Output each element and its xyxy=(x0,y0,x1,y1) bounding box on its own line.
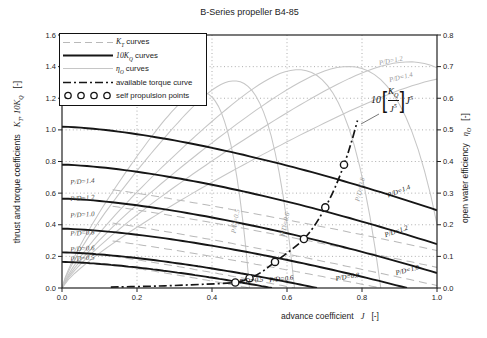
formula-part: J5 xyxy=(405,94,413,106)
chart-legend: KT curves10KQ curvesηO curvesavailable t… xyxy=(59,33,207,106)
kt-curve-label: P/D=1.0 xyxy=(69,210,95,219)
chart-title: B-Series propeller B4-85 xyxy=(62,7,437,17)
left-y-tick-label: 0.8 xyxy=(46,157,56,166)
kt-curve-label: P/D=0.6 xyxy=(69,244,95,253)
kt-curve-label: P/D=1.4 xyxy=(69,177,95,186)
right-y-tick-label: 0.3 xyxy=(443,189,453,198)
kq-curve-label: P/D=1.4 xyxy=(385,183,411,199)
kq-curve-label: P/D=0.8 xyxy=(334,271,360,282)
self-propulsion-points xyxy=(232,161,348,286)
left-y-tick-label: 0.6 xyxy=(46,189,56,198)
left-y-tick-label: 0.0 xyxy=(46,284,56,293)
kt-curve-label: P/D=0.5 xyxy=(69,253,95,262)
annotation-leader-line xyxy=(361,114,379,124)
legend-sample-eta xyxy=(60,63,116,74)
kt-curve-label: P/D=0.8 xyxy=(69,228,95,237)
x-tick-label: 0.6 xyxy=(282,293,292,302)
formula-part: KQJ5 xyxy=(388,86,399,114)
self-propulsion-point xyxy=(271,258,278,265)
eta-curve-label: P/D=0.8 xyxy=(353,176,366,203)
x-axis-label: advance coefficientJ[-] xyxy=(180,311,480,321)
right-y-tick-label: 0.4 xyxy=(443,157,453,166)
left-y-tick-label: 1.2 xyxy=(46,94,56,103)
propeller-open-water-chart: P/D=0.5P/D=0.6P/D=0.8P/D=1.0P/D=1.2P/D=1… xyxy=(0,0,487,338)
legend-sample-circle xyxy=(91,92,97,98)
formula-part: 10 xyxy=(371,94,381,105)
legend-label: 10KQ curves xyxy=(116,51,158,62)
left-y-tick-label: 1.6 xyxy=(46,31,56,40)
legend-row-kt: KT curves xyxy=(60,36,206,49)
self-propulsion-point xyxy=(232,279,239,286)
legend-sample-circle xyxy=(104,92,110,98)
right-y-tick-label: 0.2 xyxy=(443,220,453,229)
available-torque-curve xyxy=(111,120,358,287)
legend-sample-torque xyxy=(60,77,116,88)
right-y-tick-label: 0.8 xyxy=(443,31,453,40)
legend-label: self propulsion points xyxy=(116,91,189,100)
legend-sample-points xyxy=(60,90,116,101)
right-y-tick-label: 0.6 xyxy=(443,94,453,103)
legend-sample-kq xyxy=(60,50,116,61)
kt-curve-pd-0.6 xyxy=(113,256,295,288)
eta-curve-label: P/D=1.2 xyxy=(377,54,404,66)
kq-curve-label: P/D=1.2 xyxy=(383,224,410,239)
eta-curve-label: P/D=1.4 xyxy=(387,70,414,83)
legend-label: available torque curve xyxy=(116,78,192,87)
legend-row-points: self propulsion points xyxy=(60,89,206,102)
legend-row-eta: ηO curves xyxy=(60,62,206,75)
torque-curve-formula-annotation: 10[KQJ5]J5 xyxy=(371,86,413,114)
x-tick-label: 0.4 xyxy=(207,293,217,302)
self-propulsion-point xyxy=(340,161,347,168)
right-y-tick-label: 0.0 xyxy=(443,284,453,293)
legend-sample-circle xyxy=(65,92,71,98)
right-y-tick-label: 0.1 xyxy=(443,252,453,261)
legend-sample-kt xyxy=(60,37,116,48)
x-tick-label: 0.0 xyxy=(57,293,67,302)
left-y-tick-label: 0.2 xyxy=(46,252,56,261)
formula-part: ] xyxy=(399,87,404,113)
formula-part: [ xyxy=(382,87,387,113)
legend-label: ηO curves xyxy=(116,64,149,75)
left-y-axis-label: thrust and torque coefficientsKT, 10KQ[-… xyxy=(12,22,24,302)
x-tick-label: 0.2 xyxy=(132,293,142,302)
left-y-tick-label: 1.0 xyxy=(46,125,56,134)
eta-curve-label: P/D=0.5 xyxy=(229,208,240,234)
x-tick-label: 1.0 xyxy=(432,293,442,302)
x-tick-label: 0.8 xyxy=(357,293,367,302)
self-propulsion-point xyxy=(322,204,329,211)
kq-curve-pd-1 xyxy=(62,199,437,273)
right-y-tick-label: 0.5 xyxy=(443,125,453,134)
legend-sample-circle xyxy=(78,92,84,98)
left-y-tick-label: 0.4 xyxy=(46,220,56,229)
left-y-tick-label: 1.4 xyxy=(46,62,56,71)
right-y-axis-label: open water efficiencyηO[-] xyxy=(460,48,472,288)
legend-label: KT curves xyxy=(116,37,149,48)
legend-row-kq: 10KQ curves xyxy=(60,49,206,62)
kq-curve-label: P/D=0.5 xyxy=(238,276,264,285)
self-propulsion-point xyxy=(300,235,307,242)
right-y-tick-label: 0.7 xyxy=(443,62,453,71)
legend-row-torque: available torque curve xyxy=(60,76,206,89)
